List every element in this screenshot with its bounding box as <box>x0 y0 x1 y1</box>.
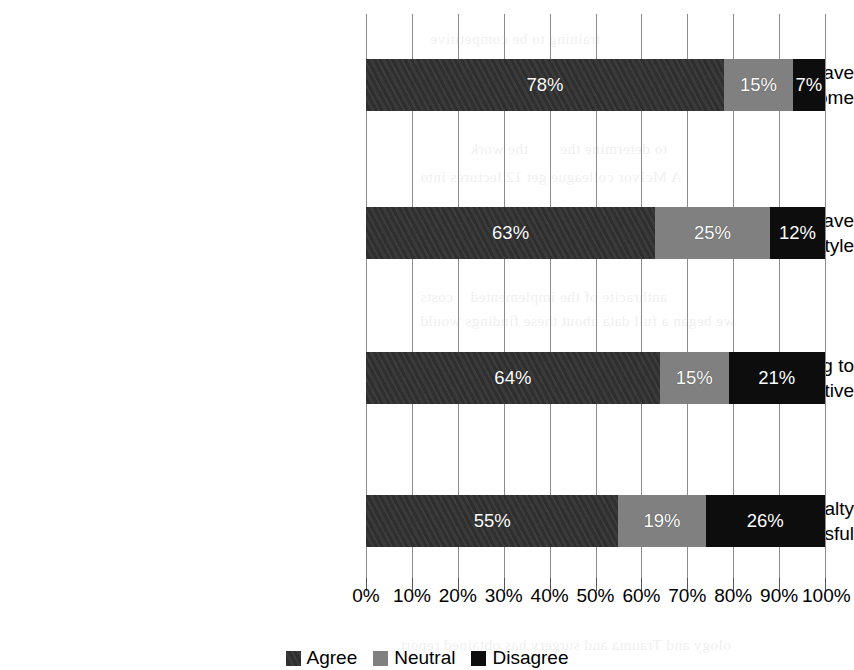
bar-segment-value-label: 7% <box>796 76 823 95</box>
bar-segment-value-label: 12% <box>779 224 816 243</box>
x-axis-tick-label: 10% <box>389 584 435 608</box>
legend-label: Agree <box>307 648 358 668</box>
bar-segment-agree: 63% <box>366 207 655 259</box>
bar-segment-value-label: 26% <box>747 512 784 531</box>
bar-row: 63%25%12% <box>366 207 825 259</box>
bar-row: 55%19%26% <box>366 495 825 547</box>
x-axis-tick-label: 30% <box>481 584 527 608</box>
x-axis-tick-label: 60% <box>618 584 664 608</box>
stacked-bar: 78%15%7% <box>366 59 825 111</box>
bar-segment-value-label: 25% <box>694 224 731 243</box>
legend-item-disagree[interactable]: Disagree <box>471 648 568 668</box>
bar-segment-neutral: 19% <box>618 495 705 547</box>
x-axis-tick-label: 70% <box>664 584 710 608</box>
bar-segment-value-label: 64% <box>494 369 531 388</box>
x-axis-tick-label: 20% <box>435 584 481 608</box>
bar-segment-disagree: 26% <box>706 495 825 547</box>
bar-segment-neutral: 15% <box>724 59 793 111</box>
bar-segment-agree: 64% <box>366 352 660 404</box>
gridline <box>825 14 826 578</box>
bar-segment-neutral: 15% <box>660 352 729 404</box>
stacked-bar: 63%25%12% <box>366 207 825 259</box>
x-axis-tick-label: 50% <box>573 584 619 608</box>
x-axis-tick-label: 0% <box>343 584 389 608</box>
bar-segment-neutral: 25% <box>655 207 770 259</box>
bar-segment-disagree: 21% <box>729 352 825 404</box>
bar-segment-value-label: 78% <box>526 76 563 95</box>
x-axis-tick-label: 90% <box>756 584 802 608</box>
bar-segment-value-label: 15% <box>740 76 777 95</box>
legend-label: Neutral <box>394 648 455 668</box>
bar-segment-value-label: 15% <box>676 369 713 388</box>
legend-item-neutral[interactable]: Neutral <box>373 648 455 668</box>
stacked-bar-chart: If I complete specialty training I'll ha… <box>0 0 854 670</box>
bar-row: 64%15%21% <box>366 352 825 404</box>
bar-segment-value-label: 21% <box>758 369 795 388</box>
legend-swatch-disagree <box>471 651 486 666</box>
legend-label: Disagree <box>492 648 568 668</box>
x-axis-tick-label: 80% <box>710 584 756 608</box>
bar-segment-value-label: 19% <box>644 512 681 531</box>
stacked-bar: 55%19%26% <box>366 495 825 547</box>
chart-legend: AgreeNeutralDisagree <box>0 648 854 668</box>
bar-segment-value-label: 55% <box>474 512 511 531</box>
bar-segment-agree: 78% <box>366 59 724 111</box>
bar-row: 78%15%7% <box>366 59 825 111</box>
x-axis-tick-label: 100% <box>802 584 848 608</box>
legend-swatch-agree <box>286 651 301 666</box>
bar-segment-value-label: 63% <box>492 224 529 243</box>
bar-segment-agree: 55% <box>366 495 618 547</box>
x-axis-tick-labels: 0%10%20%30%40%50%60%70%80%90%100% <box>0 584 854 610</box>
stacked-bar: 64%15%21% <box>366 352 825 404</box>
legend-item-agree[interactable]: Agree <box>286 648 358 668</box>
legend-swatch-neutral <box>373 651 388 666</box>
x-axis-tick-label: 40% <box>527 584 573 608</box>
plot-area: 78%15%7%63%25%12%64%15%21%55%19%26% <box>366 14 825 578</box>
bar-segment-disagree: 7% <box>793 59 825 111</box>
bar-segment-disagree: 12% <box>770 207 825 259</box>
